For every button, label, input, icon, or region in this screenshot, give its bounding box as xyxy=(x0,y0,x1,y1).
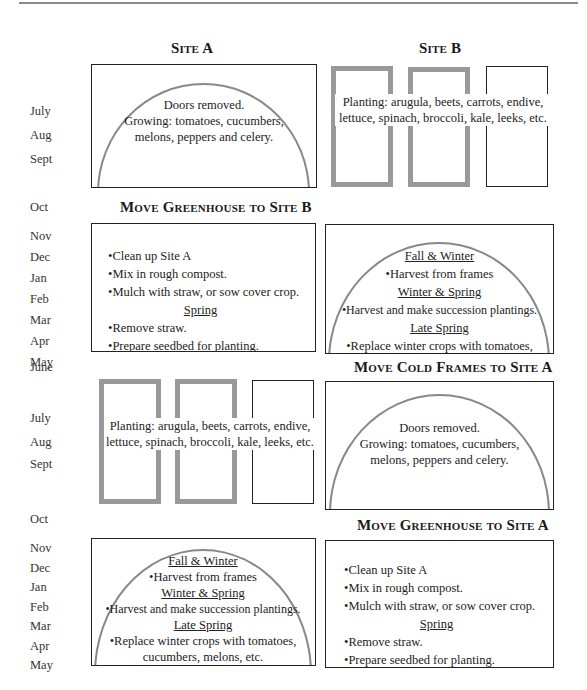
greenhouse-text: melons, peppers and celery. xyxy=(326,452,553,468)
greenhouse-task: •Harvest and make succession plantings. xyxy=(91,601,316,617)
month-label: June xyxy=(30,360,53,375)
greenhouse-task: •Replace winter crops with tomatoes, xyxy=(91,633,316,649)
cleanup-item: •Clean up Site A xyxy=(344,561,549,579)
greenhouse-task: cucumbers, melons, etc. xyxy=(91,649,316,665)
cleanup-item: •Mix in rough compost. xyxy=(108,265,313,283)
month-label: Nov xyxy=(30,541,52,556)
greenhouse-text: Growing: tomatoes, cucumbers, xyxy=(92,113,316,129)
site-b-cleanup: •Clean up Site A •Mix in rough compost. … xyxy=(325,540,554,668)
greenhouse-text: Doors removed. xyxy=(92,97,316,113)
month-label: Sept xyxy=(30,457,52,472)
spring-subheading: Spring xyxy=(344,615,529,633)
cleanup-item: •Prepare seedbed for planting. xyxy=(108,337,313,352)
cleanup-item: •Remove straw. xyxy=(344,633,549,651)
cleanup-item: •Mulch with straw, or sow cover crop. xyxy=(344,597,549,615)
month-label: May xyxy=(30,658,53,673)
season-subheading: Late Spring xyxy=(325,319,554,337)
heading-site-a: Site A xyxy=(171,40,213,57)
cold-frames-text: Planting: arugula, beets, carrots, endiv… xyxy=(104,418,316,434)
season-subheading: Late Spring xyxy=(91,617,316,633)
greenhouse-task: •Harvest from frames xyxy=(91,569,316,585)
greenhouse-task: •Replace winter crops with tomatoes, xyxy=(325,337,554,354)
month-label: Jan xyxy=(30,580,47,595)
month-label: Oct xyxy=(30,512,48,527)
month-label: Dec xyxy=(30,250,50,265)
month-label: Sept xyxy=(30,152,52,167)
cleanup-item: •Remove straw. xyxy=(108,319,313,337)
month-label: Aug xyxy=(30,128,52,143)
month-label: Apr xyxy=(30,334,49,349)
season-subheading: Fall & Winter xyxy=(91,553,316,569)
month-label: July xyxy=(30,104,51,119)
month-label: Feb xyxy=(30,600,49,615)
cold-frames-text: Planting: arugula, beets, carrots, endiv… xyxy=(335,94,551,110)
site-a-greenhouse-winter: Fall & Winter •Harvest from frames Winte… xyxy=(91,538,316,666)
cold-frames-text: lettuce, spinach, broccoli, kale, leeks,… xyxy=(104,434,316,450)
month-label: July xyxy=(30,411,51,426)
month-label: Aug xyxy=(30,435,52,450)
month-label: Feb xyxy=(30,292,49,307)
month-label: Oct xyxy=(30,200,48,215)
heading-move-greenhouse-to-site-a: Move Greenhouse to Site A xyxy=(357,517,549,534)
month-label: Mar xyxy=(30,313,51,328)
site-a-cleanup: •Clean up Site A •Mix in rough compost. … xyxy=(91,223,316,352)
month-label: Jan xyxy=(30,271,47,286)
heading-move-cold-frames-to-site-a: Move Cold Frames to Site A xyxy=(354,359,553,376)
greenhouse-task: •Harvest and make succession plantings. xyxy=(325,301,554,319)
heading-site-b: Site B xyxy=(419,40,461,57)
month-label: Mar xyxy=(30,619,51,634)
month-label: Dec xyxy=(30,561,50,576)
site-a-greenhouse-summer: Doors removed. Growing: tomatoes, cucumb… xyxy=(91,64,317,188)
greenhouse-text: melons, peppers and celery. xyxy=(92,129,316,145)
cleanup-item: •Mulch with straw, or sow cover crop. xyxy=(108,283,313,301)
greenhouse-task: •Harvest from frames xyxy=(325,265,554,283)
heading-move-greenhouse-to-site-b: Move Greenhouse to Site B xyxy=(120,199,312,216)
site-b-greenhouse-winter: Fall & Winter •Harvest from frames Winte… xyxy=(325,224,554,354)
month-label: Apr xyxy=(30,639,49,654)
cold-frame-icon xyxy=(331,66,393,187)
cold-frames-text: lettuce, spinach, broccoli, kale, leeks,… xyxy=(335,110,551,126)
season-subheading: Winter & Spring xyxy=(325,283,554,301)
season-subheading: Winter & Spring xyxy=(91,585,316,601)
cold-frame-icon xyxy=(408,67,470,187)
top-rule xyxy=(19,2,578,4)
month-label: Nov xyxy=(30,229,52,244)
cleanup-item: •Mix in rough compost. xyxy=(344,579,549,597)
greenhouse-text: Doors removed. xyxy=(326,420,553,436)
cleanup-item: •Prepare seedbed for planting. xyxy=(344,651,549,668)
site-b-greenhouse-summer: Doors removed. Growing: tomatoes, cucumb… xyxy=(325,381,554,510)
cleanup-item: •Clean up Site A xyxy=(108,247,313,265)
greenhouse-text: Growing: tomatoes, cucumbers, xyxy=(326,436,553,452)
cold-frame-icon xyxy=(486,66,548,187)
season-subheading: Fall & Winter xyxy=(325,247,554,265)
spring-subheading: Spring xyxy=(108,301,293,319)
